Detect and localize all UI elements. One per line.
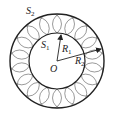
label-center-o: O bbox=[50, 63, 57, 74]
label-s2: S2 bbox=[26, 5, 35, 18]
diagram-canvas: S2 S1 R1 R2 O bbox=[0, 0, 117, 113]
